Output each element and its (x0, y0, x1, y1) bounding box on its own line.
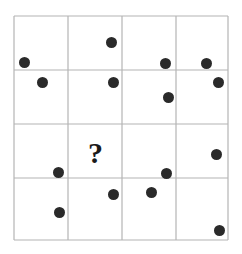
dot-r2c3 (163, 92, 174, 103)
dot-r4c3 (146, 187, 157, 198)
dot-r3c3 (161, 168, 172, 179)
grid-lines (0, 0, 242, 254)
dot-r3c4 (211, 149, 222, 160)
dot-r4c1 (54, 207, 65, 218)
dot-r2c2 (108, 77, 119, 88)
dot-r1c4 (201, 58, 212, 69)
dot-r4c2 (108, 189, 119, 200)
question-mark: ? (88, 138, 103, 168)
dot-r4c4 (214, 225, 225, 236)
dot-r1c3 (160, 58, 171, 69)
dot-r1c1 (19, 57, 30, 68)
dot-r1c2 (106, 37, 117, 48)
dot-r2c4 (213, 77, 224, 88)
dot-r3c1 (53, 167, 64, 178)
dot-r2c1 (37, 77, 48, 88)
dot-pattern-puzzle: ? (0, 0, 242, 254)
